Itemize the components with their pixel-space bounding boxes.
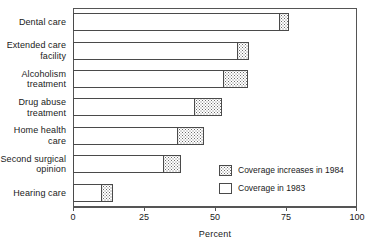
bar-segment-coverage-1983[interactable] [74, 71, 223, 87]
bar-segment-coverage-increase-1984[interactable] [101, 185, 112, 201]
bar-segment-coverage-increase-1984[interactable] [177, 128, 202, 144]
bar-segment-coverage-1983[interactable] [74, 14, 279, 30]
bar-row [73, 8, 357, 36]
bar-row [73, 122, 357, 150]
bar-segment-coverage-increase-1984[interactable] [194, 99, 221, 115]
y-axis-label-line: Extended care [0, 40, 66, 51]
x-axis-title: Percent [73, 229, 357, 239]
x-axis-tick [286, 207, 287, 211]
x-axis-tick [73, 207, 74, 211]
y-axis-label-line: Hearing care [0, 188, 66, 199]
bar-segment-coverage-1983[interactable] [74, 128, 177, 144]
y-axis-label-line: treatment [0, 79, 66, 90]
y-axis-label: Alcoholismtreatment [0, 69, 66, 90]
legend-item-coverage-1983[interactable]: Coverage in 1983 [219, 180, 355, 196]
bar-row [73, 36, 357, 64]
legend-label: Coverage increases in 1984 [238, 165, 344, 175]
y-axis-label: Extended carefacility [0, 40, 66, 61]
stacked-bar[interactable] [73, 13, 289, 31]
stacked-bar[interactable] [73, 127, 204, 145]
x-axis-tick-label: 50 [200, 212, 230, 223]
bar-segment-coverage-increase-1984[interactable] [223, 71, 247, 87]
y-axis-label: Second surgicalopinion [0, 154, 66, 175]
y-axis-label-line: Home health [0, 125, 66, 136]
y-axis-label-line: facility [0, 51, 66, 62]
bar-segment-coverage-1983[interactable] [74, 43, 237, 59]
y-axis-label: Hearing care [0, 188, 66, 199]
stacked-bar[interactable] [73, 98, 222, 116]
x-axis-tick-label: 25 [129, 212, 159, 223]
x-axis-tick-label: 75 [271, 212, 301, 223]
stacked-bar[interactable] [73, 184, 113, 202]
x-axis-tick [215, 207, 216, 211]
y-axis-label: Dental care [0, 17, 66, 28]
x-axis-tick [356, 207, 357, 211]
y-axis-label-line: opinion [0, 164, 66, 175]
bar-segment-coverage-1983[interactable] [74, 185, 101, 201]
bar-segment-coverage-increase-1984[interactable] [237, 43, 248, 59]
legend-label: Coverage in 1983 [238, 183, 305, 193]
y-axis-label-line: treatment [0, 108, 66, 119]
y-axis-label-line: Alcoholism [0, 69, 66, 80]
y-axis-label-line: Drug abuse [0, 97, 66, 108]
x-axis-tick [144, 207, 145, 211]
x-axis-tick-label: 0 [58, 212, 88, 223]
y-axis-label: Drug abusetreatment [0, 97, 66, 118]
y-axis-labels: Dental careExtended carefacilityAlcoholi… [0, 8, 70, 207]
y-axis-label-line: care [0, 136, 66, 147]
bar-segment-coverage-1983[interactable] [74, 99, 194, 115]
bar-segment-coverage-increase-1984[interactable] [279, 14, 287, 30]
legend-swatch-white-icon [219, 183, 232, 194]
y-axis-label-line: Second surgical [0, 154, 66, 165]
y-axis-label-line: Dental care [0, 17, 66, 28]
bar-row [73, 65, 357, 93]
bar-row [73, 93, 357, 121]
bar-segment-coverage-increase-1984[interactable] [163, 156, 180, 172]
stacked-bar[interactable] [73, 42, 249, 60]
legend-swatch-stipple-icon [219, 165, 232, 176]
chart-container: Dental careExtended carefacilityAlcoholi… [0, 0, 373, 249]
stacked-bar[interactable] [73, 155, 181, 173]
x-axis-tick-label: 100 [342, 212, 372, 223]
legend: Coverage increases in 1984 Coverage in 1… [219, 162, 355, 198]
bar-segment-coverage-1983[interactable] [74, 156, 163, 172]
stacked-bar[interactable] [73, 70, 248, 88]
y-axis-label: Home healthcare [0, 125, 66, 146]
legend-item-coverage-increases-1984[interactable]: Coverage increases in 1984 [219, 162, 355, 178]
